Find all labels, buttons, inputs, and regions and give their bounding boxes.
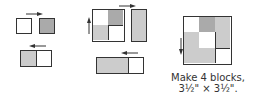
quilt-diagram: Make 4 blocks, 3½" × 3½". [0, 0, 254, 108]
wide-rectangle-unit [96, 57, 144, 74]
two-patch-gray-half [21, 51, 37, 66]
block-bottom-wide [184, 48, 216, 63]
arrow-left-icon [28, 42, 46, 50]
block-top-left [184, 17, 200, 33]
caption-line-1: Make 4 blocks, [168, 72, 248, 83]
arrow-left-icon [120, 49, 138, 57]
caption: Make 4 blocks, 3½" × 3½". [168, 72, 248, 94]
arrow-right-icon [26, 10, 44, 18]
wide-rectangle-gray-part [97, 58, 129, 73]
four-patch-bottom-left [93, 25, 109, 40]
two-patch-unit [20, 50, 52, 67]
finished-block [183, 16, 232, 65]
white-square [16, 18, 32, 34]
tall-rectangle [131, 9, 147, 42]
block-right-tall [215, 17, 230, 49]
caption-line-2: 3½" × 3½". [168, 83, 248, 94]
block-top-middle [199, 17, 216, 33]
block-middle-left [184, 32, 200, 49]
gray-square [39, 18, 55, 34]
block-middle-center [199, 32, 216, 49]
four-patch-unit [92, 9, 125, 42]
four-patch-top-right [108, 10, 123, 26]
four-patch-top-left [93, 10, 109, 26]
